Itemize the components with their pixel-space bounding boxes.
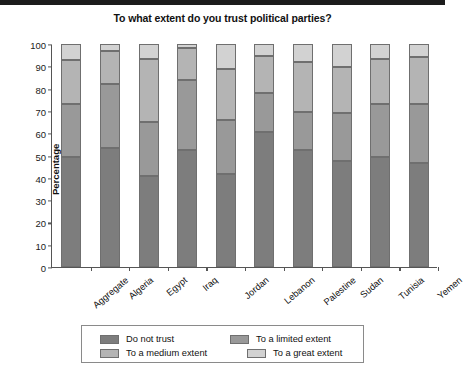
y-tick-label: 90 — [35, 62, 46, 73]
legend-label: To a medium extent — [126, 348, 207, 358]
x-tick-mark — [399, 267, 400, 271]
bar-segment[interactable] — [61, 44, 81, 60]
y-tick-label: 10 — [35, 240, 46, 251]
bar-segment[interactable] — [216, 44, 236, 69]
x-tick-mark — [206, 267, 207, 271]
x-tick-mark — [168, 267, 169, 271]
legend-swatch — [230, 335, 249, 344]
legend-swatch — [247, 349, 266, 358]
y-tick-mark — [48, 178, 52, 179]
legend-label: To a limited extent — [256, 334, 331, 344]
legend-swatch — [100, 335, 119, 344]
y-tick-mark — [48, 89, 52, 90]
y-tick-label: 70 — [35, 106, 46, 117]
bar-segment[interactable] — [370, 59, 390, 105]
y-tick-label: 80 — [35, 84, 46, 95]
y-tick-mark — [48, 245, 52, 246]
x-axis-label-tunisia: Tunisia — [397, 275, 426, 302]
bar-iraq[interactable] — [177, 44, 197, 267]
bar-segment[interactable] — [254, 93, 274, 132]
x-tick-mark — [438, 267, 439, 271]
bar-segment[interactable] — [100, 44, 120, 51]
bar-segment[interactable] — [409, 44, 429, 57]
bar-segment[interactable] — [409, 57, 429, 104]
bar-segment[interactable] — [254, 132, 274, 267]
bar-segment[interactable] — [332, 67, 352, 113]
bar-yemen[interactable] — [409, 44, 429, 267]
bar-egypt[interactable] — [139, 44, 159, 267]
bar-palestine[interactable] — [293, 44, 313, 267]
bar-segment[interactable] — [177, 44, 197, 48]
bar-segment[interactable] — [293, 44, 313, 62]
y-tick-label: 20 — [35, 218, 46, 229]
bar-segment[interactable] — [216, 120, 236, 175]
bar-segment[interactable] — [216, 174, 236, 267]
bar-segment[interactable] — [61, 157, 81, 267]
bar-segment[interactable] — [100, 148, 120, 267]
x-tick-mark — [245, 267, 246, 271]
y-tick-mark — [48, 267, 52, 268]
bar-segment[interactable] — [177, 48, 197, 79]
y-tick-mark — [48, 201, 52, 202]
bar-segment[interactable] — [332, 161, 352, 267]
y-tick-label: 50 — [35, 151, 46, 162]
bar-segment[interactable] — [100, 84, 120, 148]
y-axis-label: Percentage — [50, 144, 61, 195]
bar-segment[interactable] — [177, 80, 197, 150]
bar-segment[interactable] — [409, 104, 429, 163]
legend-label: Do not trust — [126, 334, 174, 344]
bar-segment[interactable] — [61, 104, 81, 156]
x-tick-mark — [91, 267, 92, 271]
x-axis-label-sudan: Sudan — [358, 275, 385, 300]
y-tick-label: 100 — [30, 40, 46, 51]
y-tick-mark — [48, 67, 52, 68]
x-axis-label-lebanon: Lebanon — [283, 275, 317, 306]
bar-tunisia[interactable] — [370, 44, 390, 267]
bar-segment[interactable] — [254, 44, 274, 56]
y-tick-mark — [48, 44, 52, 45]
x-tick-mark — [322, 267, 323, 271]
chart-title: To what extent do you trust political pa… — [0, 12, 445, 24]
y-tick-label: 60 — [35, 129, 46, 140]
bar-segment[interactable] — [139, 44, 159, 58]
bar-segment[interactable] — [370, 44, 390, 58]
plot-area: Percentage 0102030405060708090100 Aggreg… — [51, 45, 437, 268]
bar-segment[interactable] — [177, 150, 197, 267]
bar-sudan[interactable] — [332, 44, 352, 267]
y-tick-mark — [48, 156, 52, 157]
bar-segment[interactable] — [370, 104, 390, 156]
bar-segment[interactable] — [409, 163, 429, 267]
x-axis-label-egypt: Egypt — [164, 275, 189, 298]
bar-algeria[interactable] — [100, 44, 120, 267]
y-tick-label: 40 — [35, 173, 46, 184]
bar-segment[interactable] — [139, 122, 159, 176]
bar-segment[interactable] — [100, 51, 120, 84]
bar-aggregate[interactable] — [61, 44, 81, 267]
y-tick-label: 30 — [35, 196, 46, 207]
bar-segment[interactable] — [61, 60, 81, 105]
bar-segment[interactable] — [332, 113, 352, 161]
bar-segment[interactable] — [216, 69, 236, 120]
bar-segment[interactable] — [293, 150, 313, 267]
legend-label: To a great extent — [273, 348, 342, 358]
bar-jordan[interactable] — [216, 44, 236, 267]
x-axis-label-aggregate: Aggregate — [91, 275, 130, 310]
x-axis-label-iraq: Iraq — [201, 275, 220, 293]
x-tick-mark — [361, 267, 362, 271]
bar-segment[interactable] — [139, 59, 159, 123]
x-axis-label-yemen: Yemen — [435, 275, 463, 301]
bar-segment[interactable] — [254, 56, 274, 93]
y-tick-label: 0 — [41, 263, 46, 274]
bar-segment[interactable] — [332, 44, 352, 67]
x-tick-mark — [129, 267, 130, 271]
y-tick-mark — [48, 111, 52, 112]
bar-segment[interactable] — [293, 62, 313, 112]
x-axis-label-algeria: Algeria — [127, 275, 156, 301]
bar-segment[interactable] — [293, 112, 313, 150]
x-tick-mark — [284, 267, 285, 271]
y-tick-mark — [48, 134, 52, 135]
bar-segment[interactable] — [370, 157, 390, 267]
bar-segment[interactable] — [139, 176, 159, 267]
x-axis-label-palestine: Palestine — [322, 275, 358, 307]
bar-lebanon[interactable] — [254, 44, 274, 267]
